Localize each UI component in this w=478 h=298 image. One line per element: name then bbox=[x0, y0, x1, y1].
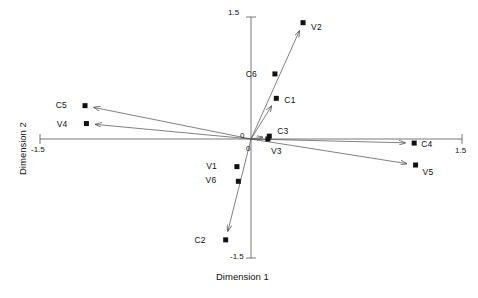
tick-label-x-left: -1.5 bbox=[31, 146, 45, 154]
axes bbox=[40, 17, 462, 258]
marker-c1 bbox=[274, 96, 279, 101]
point-label-v2: V2 bbox=[311, 23, 322, 32]
tick-label-y-top: 1.5 bbox=[228, 9, 239, 17]
point-label-v6: V6 bbox=[206, 176, 217, 185]
point-label-v5: V5 bbox=[423, 168, 434, 177]
tick-label-origin-x: 0 bbox=[240, 132, 244, 140]
point-label-c5: C5 bbox=[56, 101, 67, 110]
point-label-c2: C2 bbox=[194, 236, 205, 245]
marker-v2 bbox=[301, 20, 306, 25]
marker-v6 bbox=[236, 179, 241, 184]
point-label-c4: C4 bbox=[421, 140, 432, 149]
point-label-v1: V1 bbox=[206, 162, 217, 171]
marker-c6 bbox=[272, 71, 277, 76]
marker-v3 bbox=[265, 137, 270, 142]
point-label-c3: C3 bbox=[277, 127, 288, 136]
point-label-c6: C6 bbox=[246, 70, 257, 79]
marker-v4 bbox=[84, 121, 89, 126]
point-label-v4: V4 bbox=[57, 120, 68, 129]
vector-line-v4 bbox=[95, 124, 251, 139]
point-label-c1: C1 bbox=[284, 96, 295, 105]
marker-c2 bbox=[223, 237, 228, 242]
y-axis-title: Dimension 2 bbox=[18, 122, 28, 175]
vector-line-c5 bbox=[94, 107, 251, 139]
x-axis-title: Dimension 1 bbox=[216, 272, 269, 282]
vector-line-c4 bbox=[251, 139, 405, 143]
tick-label-x-right: 1.5 bbox=[455, 147, 466, 155]
marker-v1 bbox=[234, 164, 239, 169]
marker-c5 bbox=[83, 103, 88, 108]
vector-lines bbox=[94, 31, 407, 231]
tick-label-y-bottom: -1.5 bbox=[230, 253, 244, 261]
data-point-markers bbox=[83, 20, 419, 242]
marker-c4 bbox=[412, 141, 417, 146]
tick-label-origin-y: 0 bbox=[246, 145, 250, 153]
vector-line-v2 bbox=[251, 31, 299, 139]
marker-v5 bbox=[413, 163, 418, 168]
point-label-v3: V3 bbox=[271, 147, 282, 156]
biplot-chart: V2C6C1C5V4C3V3C4V5V1V6C2 1.5 -1.5 -1.5 1… bbox=[0, 0, 478, 298]
